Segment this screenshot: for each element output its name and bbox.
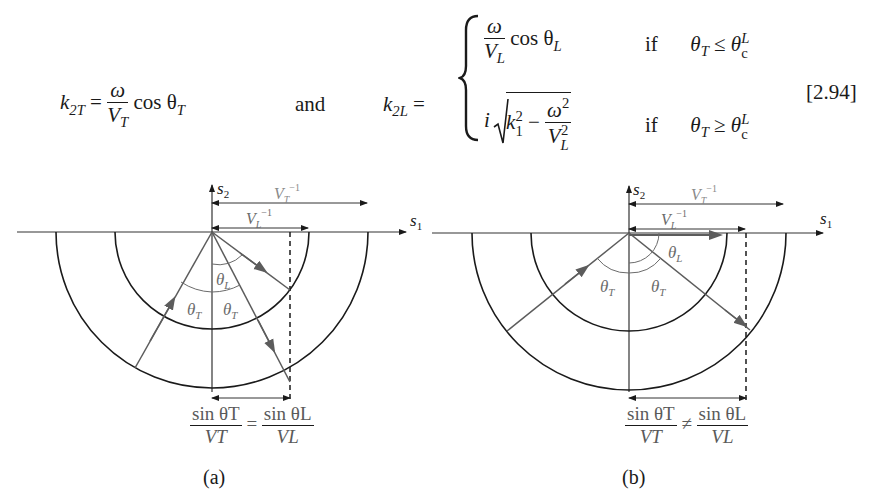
- svg-text:θT: θT: [651, 277, 666, 298]
- caption-b: (b): [622, 466, 645, 489]
- svg-text:θT: θT: [600, 277, 615, 298]
- diagram-a: θL θT θT s2 s1 VT−1 VL−1: [17, 179, 422, 400]
- relation-b: sin θT VT ≠ sin θL VL: [625, 403, 748, 448]
- relation-sign: ≠: [681, 413, 691, 434]
- caption-a: (a): [203, 466, 225, 489]
- svg-text:s1: s1: [820, 209, 832, 230]
- svg-text:s1: s1: [410, 211, 422, 232]
- svg-text:s2: s2: [633, 180, 645, 201]
- left-fraction: sin θT VT: [190, 403, 242, 448]
- relation-a: sin θT VT = sin θL VL: [190, 403, 314, 448]
- right-fraction: sin θL VL: [697, 403, 749, 448]
- svg-text:VT−1: VT−1: [274, 182, 300, 205]
- svg-text:VL−1: VL−1: [661, 208, 687, 231]
- right-fraction: sin θL VL: [262, 403, 314, 448]
- theta-T-arc-right: [629, 258, 661, 273]
- svg-text:θL: θL: [668, 243, 682, 264]
- svg-text:s2: s2: [217, 179, 229, 200]
- left-fraction: sin θT VT: [625, 403, 677, 448]
- theta-T-arc-left: [181, 282, 212, 292]
- svg-text:VT−1: VT−1: [691, 183, 717, 206]
- theta-T-arc-left: [597, 258, 629, 273]
- svg-text:θT: θT: [223, 300, 238, 321]
- svg-text:VL−1: VL−1: [246, 207, 272, 230]
- svg-text:θL: θL: [216, 270, 230, 291]
- relation-sign: =: [246, 413, 257, 434]
- diagram-b: θL θT θT s2 s1 VT−1 VL−1: [432, 180, 832, 400]
- incident-ray: [135, 232, 212, 368]
- svg-text:θT: θT: [187, 300, 202, 321]
